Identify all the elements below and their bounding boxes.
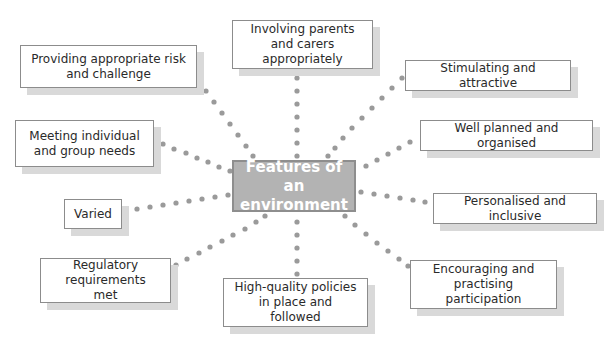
feature-varied: Varied <box>64 199 122 229</box>
feature-high-quality-policies: High-quality policies in place and follo… <box>223 278 368 327</box>
feature-encouraging-participation: Encouraging and practising participation <box>410 260 557 309</box>
feature-personalised-inclusive: Personalised and inclusive <box>433 193 597 224</box>
feature-label: Meeting individual and group needs <box>26 129 143 159</box>
connector-personalised <box>358 189 427 204</box>
feature-meeting-needs: Meeting individual and group needs <box>15 120 154 167</box>
feature-label: Involving parents and carers appropriate… <box>243 22 362 67</box>
central-topic-label: Features of an environment <box>240 158 348 215</box>
feature-label: Regulatory requirements met <box>55 258 156 303</box>
feature-label: Stimulating and attractive <box>412 61 564 91</box>
connector-risk <box>195 77 255 158</box>
feature-label: Providing appropriate risk and challenge <box>27 52 190 82</box>
connector-regulatory <box>173 213 267 267</box>
connector-participation <box>342 213 410 268</box>
feature-stimulating-attractive: Stimulating and attractive <box>405 60 571 91</box>
connector-needs <box>160 141 232 173</box>
feature-label: Encouraging and practising participation <box>417 262 550 307</box>
features-diagram: Features of an environment Providing app… <box>0 0 612 339</box>
feature-regulatory-requirements: Regulatory requirements met <box>40 258 171 303</box>
connector-stimulating <box>325 75 404 158</box>
feature-label: Personalised and inclusive <box>440 194 590 224</box>
feature-risk-and-challenge: Providing appropriate risk and challenge <box>20 45 197 88</box>
feature-label: Varied <box>74 207 112 222</box>
connector-varied <box>122 192 230 213</box>
connector-planned <box>363 139 412 168</box>
feature-well-planned: Well planned and organised <box>420 120 593 151</box>
feature-involving-parents: Involving parents and carers appropriate… <box>232 20 373 69</box>
connector-parents <box>294 75 299 158</box>
feature-label: Well planned and organised <box>427 121 586 151</box>
feature-label: High-quality policies in place and follo… <box>232 280 359 325</box>
connector-policies <box>294 219 299 276</box>
central-topic: Features of an environment <box>232 160 356 212</box>
